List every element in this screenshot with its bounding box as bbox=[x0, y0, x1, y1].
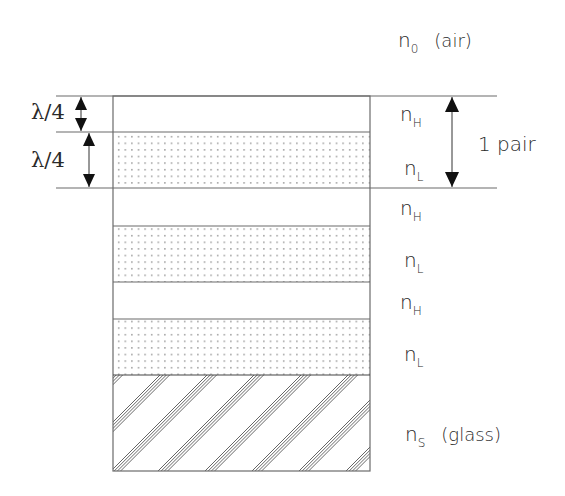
pair-label: 1 pair bbox=[478, 134, 536, 154]
layer-nH-1 bbox=[113, 96, 370, 132]
layer-nH-2 bbox=[113, 188, 370, 226]
layer-label-nH-3: nH bbox=[400, 292, 422, 317]
layer-nL-2 bbox=[113, 226, 370, 282]
stack-diagram bbox=[0, 0, 565, 496]
layer-nH-3 bbox=[113, 282, 370, 319]
ambient-label: n0(air) bbox=[398, 30, 472, 55]
quarter-wave-label-2: λ/4 bbox=[31, 150, 65, 171]
layer-label-nL-3: nL bbox=[404, 344, 423, 369]
quarter-wave-arrow-2 bbox=[83, 133, 95, 187]
quarter-wave-label-1: λ/4 bbox=[31, 102, 65, 123]
layer-label-nL-1: nL bbox=[404, 158, 423, 183]
layer-label-nH-2: nH bbox=[400, 198, 422, 223]
substrate-label: nS(glass) bbox=[405, 424, 501, 449]
layer-nL-3 bbox=[113, 319, 370, 375]
substrate-glass bbox=[113, 375, 370, 471]
layer-nL-1 bbox=[113, 132, 370, 188]
quarter-wave-arrow-1 bbox=[75, 97, 87, 131]
pair-arrow bbox=[445, 97, 459, 187]
layer-label-nL-2: nL bbox=[404, 250, 423, 275]
layer-label-nH-1: nH bbox=[400, 104, 422, 129]
